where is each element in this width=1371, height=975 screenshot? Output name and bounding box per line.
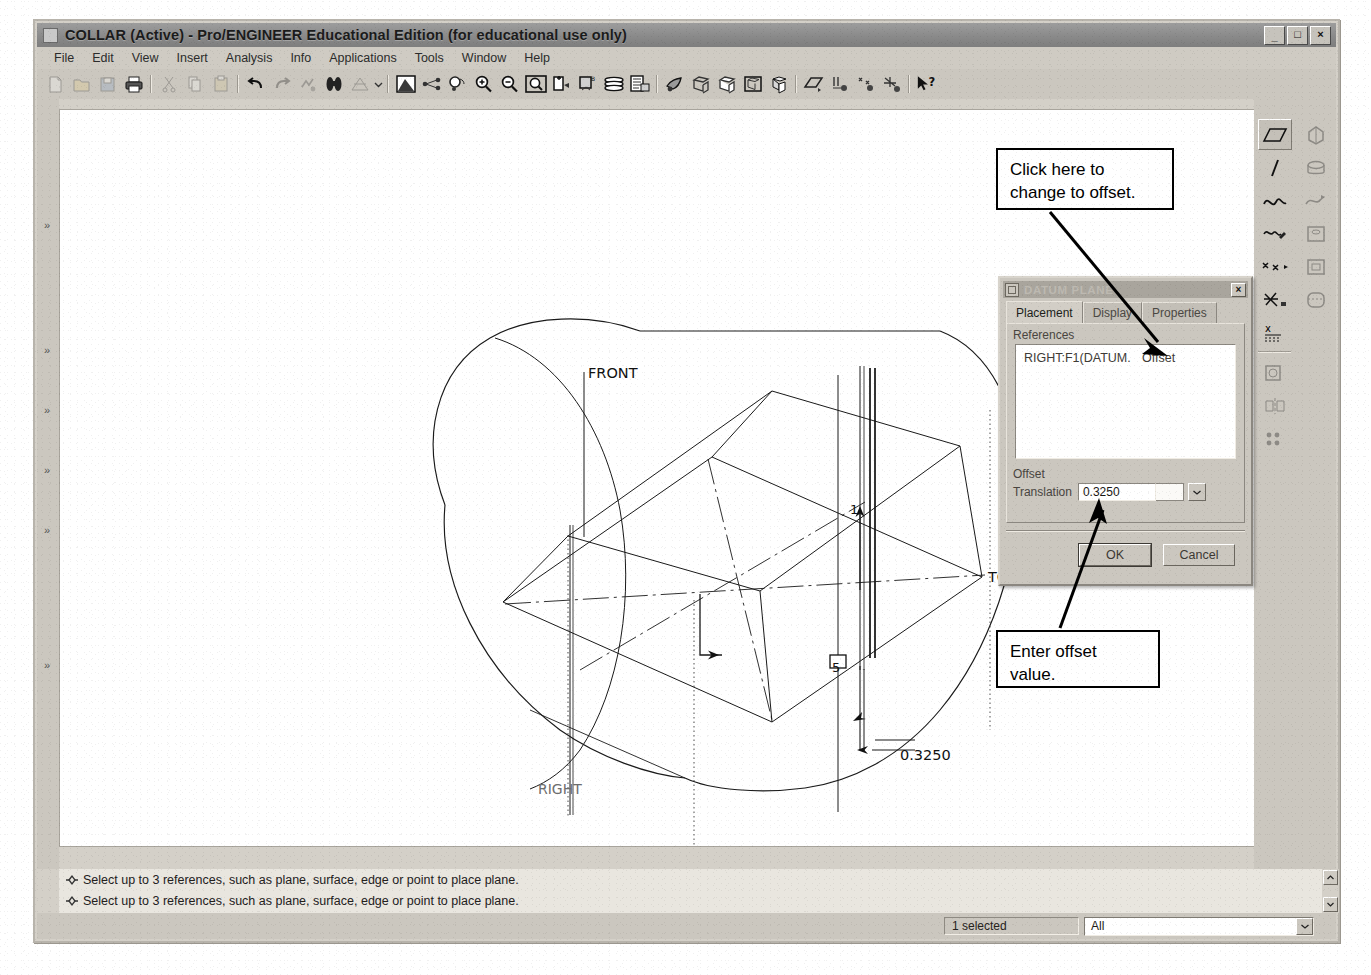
- datum-axis-tool-icon[interactable]: [1258, 152, 1292, 183]
- reference-constraint[interactable]: Offset: [1142, 351, 1175, 365]
- translation-input-pad[interactable]: [1156, 483, 1184, 501]
- tab-placement[interactable]: Placement: [1006, 301, 1083, 323]
- hiddenline-icon[interactable]: [714, 72, 739, 96]
- scroll-down-icon[interactable]: [1323, 897, 1338, 912]
- shading-icon[interactable]: [766, 72, 791, 96]
- pattern-tool-icon[interactable]: [1258, 423, 1292, 454]
- message-scrollbar[interactable]: [1322, 869, 1339, 913]
- ok-button[interactable]: OK: [1079, 544, 1151, 566]
- group-tool-icon[interactable]: [1258, 357, 1292, 388]
- datum-plane-display-icon[interactable]: [801, 72, 826, 96]
- reference-row[interactable]: RIGHT:F1(DATUM. Offset: [1024, 351, 1235, 365]
- dialog-tabs: Placement Display Properties: [1006, 302, 1245, 323]
- copy-icon[interactable]: [182, 72, 207, 96]
- redo-icon[interactable]: [269, 72, 294, 96]
- extrude-tool-icon[interactable]: [1299, 119, 1333, 150]
- menu-item-analysis[interactable]: Analysis: [217, 50, 282, 66]
- maximize-button[interactable]: □: [1287, 26, 1308, 45]
- chevron-marker[interactable]: »: [41, 659, 53, 671]
- datum-axis-display-icon[interactable]: [827, 72, 852, 96]
- datum-plane-dialog[interactable]: DATUM PLANE × Placement Display Properti…: [998, 276, 1253, 586]
- saved-views-icon[interactable]: [549, 72, 574, 96]
- view-manager-icon[interactable]: B: [575, 72, 600, 96]
- sketch-tool-icon[interactable]: [1258, 218, 1292, 249]
- shaded-view-icon[interactable]: [393, 72, 418, 96]
- print-icon[interactable]: [121, 72, 146, 96]
- minimize-button[interactable]: _: [1264, 26, 1285, 45]
- new-file-icon[interactable]: [43, 72, 68, 96]
- coord-sys-tool-icon[interactable]: [1258, 284, 1292, 315]
- chevron-marker[interactable]: »: [41, 464, 53, 476]
- zoom-in-icon[interactable]: [471, 72, 496, 96]
- dialog-close-button[interactable]: ×: [1231, 283, 1246, 297]
- callout-change-to-offset: Click here to change to offset.: [996, 148, 1174, 210]
- mirror-tool-icon[interactable]: [1258, 390, 1292, 421]
- shell-tool-icon[interactable]: [1299, 251, 1333, 282]
- reference-name: RIGHT:F1(DATUM.: [1024, 351, 1142, 365]
- datum-display-icon[interactable]: [419, 72, 444, 96]
- analysis-feature-icon[interactable]: x: [1258, 317, 1292, 348]
- regenerate-icon[interactable]: [295, 72, 320, 96]
- zoom-out-icon[interactable]: [497, 72, 522, 96]
- main-toolbar: B: [37, 69, 1336, 99]
- selection-filter-select[interactable]: All: [1084, 917, 1314, 936]
- menu-item-window[interactable]: Window: [453, 50, 515, 66]
- cancel-button[interactable]: Cancel: [1163, 544, 1235, 566]
- cut-icon[interactable]: [156, 72, 181, 96]
- repaint-icon[interactable]: [347, 72, 372, 96]
- nohidden-icon[interactable]: [740, 72, 765, 96]
- curve-tool-icon[interactable]: [1258, 185, 1292, 216]
- datum-point-tool-icon[interactable]: [1258, 251, 1292, 282]
- menu-item-applications[interactable]: Applications: [320, 50, 405, 66]
- find-icon[interactable]: [321, 72, 346, 96]
- chevron-marker[interactable]: »: [41, 219, 53, 231]
- feature-toolbar-dock: x: [1254, 99, 1336, 869]
- chevron-down-icon[interactable]: [1188, 483, 1206, 501]
- menu-bar: File Edit View Insert Analysis Info Appl…: [37, 47, 1336, 69]
- open-file-icon[interactable]: [69, 72, 94, 96]
- undo-icon[interactable]: [243, 72, 268, 96]
- round-tool-icon[interactable]: [1299, 284, 1333, 315]
- save-file-icon[interactable]: [95, 72, 120, 96]
- svg-text:?: ?: [928, 75, 935, 89]
- refit-icon[interactable]: [523, 72, 548, 96]
- chevron-marker[interactable]: »: [41, 524, 53, 536]
- menu-item-edit[interactable]: Edit: [83, 50, 123, 66]
- dialog-system-icon[interactable]: [1005, 283, 1019, 297]
- appearance-icon[interactable]: [662, 72, 687, 96]
- spin-center-icon[interactable]: [445, 72, 470, 96]
- menu-item-view[interactable]: View: [123, 50, 168, 66]
- toolbar-separator: [234, 72, 242, 96]
- model-tree-icon[interactable]: [627, 72, 652, 96]
- layers-icon[interactable]: [601, 72, 626, 96]
- sweep-tool-icon[interactable]: [1299, 185, 1333, 216]
- tab-properties[interactable]: Properties: [1142, 302, 1217, 323]
- hole-tool-icon[interactable]: [1299, 218, 1333, 249]
- menu-item-insert[interactable]: Insert: [168, 50, 217, 66]
- application-icon: [43, 28, 58, 43]
- revolve-tool-icon[interactable]: [1299, 152, 1333, 183]
- menu-item-file[interactable]: File: [45, 50, 83, 66]
- close-button[interactable]: ×: [1310, 26, 1331, 45]
- datum-point-display-icon[interactable]: [853, 72, 878, 96]
- datum-plane-tool-icon[interactable]: [1258, 119, 1292, 150]
- datum-label-right: RIGHT: [538, 781, 582, 797]
- message-arrow-icon: [65, 873, 79, 887]
- datum-csys-display-icon[interactable]: [879, 72, 904, 96]
- paste-icon[interactable]: [208, 72, 233, 96]
- dimension-value[interactable]: 0.3250: [900, 747, 951, 763]
- chevron-marker[interactable]: »: [41, 344, 53, 356]
- svg-text:B: B: [591, 75, 595, 82]
- menu-item-info[interactable]: Info: [281, 50, 320, 66]
- context-help-icon[interactable]: ?: [914, 72, 939, 96]
- menu-item-help[interactable]: Help: [515, 50, 559, 66]
- chevron-marker[interactable]: »: [41, 404, 53, 416]
- menu-item-tools[interactable]: Tools: [406, 50, 453, 66]
- tab-display[interactable]: Display: [1083, 302, 1142, 323]
- references-list[interactable]: RIGHT:F1(DATUM. Offset: [1015, 344, 1236, 459]
- toolbar-dropdown-icon[interactable]: [373, 72, 384, 96]
- translation-input[interactable]: 0.3250: [1078, 483, 1156, 501]
- chevron-down-icon[interactable]: [1296, 918, 1313, 935]
- scroll-up-icon[interactable]: [1323, 870, 1338, 885]
- wireframe-icon[interactable]: [688, 72, 713, 96]
